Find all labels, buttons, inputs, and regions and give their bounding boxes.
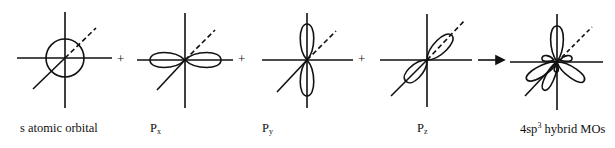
- plus-operator-1: +: [117, 51, 124, 67]
- sp3-hybrid-label: 4sp3 hybrid MOs: [520, 121, 605, 137]
- depth-axis-dashed: [65, 28, 96, 58]
- depth-axis-solid: [277, 60, 307, 92]
- depth-axis-dashed: [185, 30, 215, 60]
- s-orbital-panel: [17, 12, 112, 108]
- pz-orbital-panel: [380, 14, 472, 107]
- px-label: Px: [150, 121, 161, 136]
- depth-axis-solid: [157, 60, 185, 90]
- pz-label: Pz: [417, 121, 428, 136]
- sp3-minor-lobe-left: [542, 56, 554, 62]
- plus-operator-2: +: [238, 51, 245, 67]
- py-orbital-panel: [262, 13, 353, 108]
- sp3-hybridization-diagram: + + + s atomic orbital Px Py Pz 4sp3 hyb…: [0, 0, 615, 148]
- depth-axis-solid: [391, 60, 427, 96]
- sp3-hybrid-panel: [510, 14, 603, 110]
- px-orbital-panel: [137, 13, 233, 108]
- depth-axis-solid: [33, 58, 65, 89]
- depth-axis-dashed: [427, 20, 465, 60]
- s-orbital-label: s atomic orbital: [20, 121, 98, 136]
- plus-operator-3: +: [358, 51, 365, 67]
- depth-axis-dashed: [307, 31, 336, 60]
- right-arrow-icon: [478, 56, 504, 64]
- py-label: Py: [262, 121, 273, 136]
